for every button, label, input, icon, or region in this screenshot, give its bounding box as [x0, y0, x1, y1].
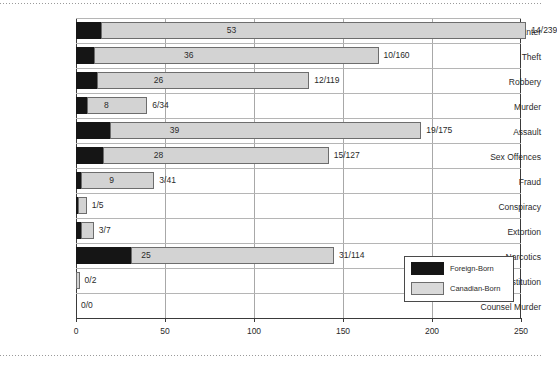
row-separator	[76, 18, 521, 19]
bar-inner-label-assault: 39	[170, 122, 179, 139]
bar-total-label-counsel-murder: 0/0	[81, 297, 93, 314]
bar-segment-canadian-born-robbery	[97, 72, 309, 89]
row-separator	[76, 168, 521, 169]
bar-narcotics	[76, 247, 334, 264]
bar-segment-foreign-born-theft	[76, 47, 94, 64]
bar-segment-canadian-born-fraud	[81, 172, 154, 189]
bar-inner-label-murder: 8	[104, 97, 109, 114]
bar-inner-label-break-enter: 53	[227, 22, 236, 39]
bar-segment-canadian-born-break-enter	[101, 22, 526, 39]
x-tick-label-100: 100	[234, 326, 274, 336]
bar-segment-canadian-born-sex-offences	[103, 147, 329, 164]
bar-conspiracy	[76, 197, 87, 214]
row-separator	[76, 118, 521, 119]
tick-mark-250	[521, 318, 522, 322]
row-band-conspiracy	[76, 193, 521, 218]
bar-break-enter	[76, 22, 526, 39]
bar-total-label-robbery: 12/119	[314, 72, 339, 89]
tick-mark-100	[254, 318, 255, 322]
tick-mark-0	[76, 318, 77, 322]
legend-item-foreign-born: Foreign-Born	[411, 261, 494, 276]
bar-inner-label-sex-offences: 28	[154, 147, 163, 164]
row-separator	[76, 193, 521, 194]
x-tick-label-250: 250	[501, 326, 541, 336]
bar-inner-label-robbery: 26	[154, 72, 163, 89]
bar-segment-canadian-born-prostitution	[76, 272, 80, 289]
bar-segment-foreign-born-murder	[76, 97, 87, 114]
bar-total-label-theft: 10/160	[384, 47, 410, 64]
bar-theft	[76, 47, 379, 64]
legend-label-canadian-born: Canadian-Born	[450, 284, 500, 293]
bar-segment-foreign-born-break-enter	[76, 22, 101, 39]
bar-assault	[76, 122, 421, 139]
bar-segment-canadian-born-narcotics	[131, 247, 334, 264]
x-tick-label-50: 50	[145, 326, 185, 336]
x-axis-line	[76, 318, 521, 319]
bar-segment-foreign-born-robbery	[76, 72, 97, 89]
bar-total-label-conspiracy: 1/5	[92, 197, 104, 214]
bar-segment-foreign-born-assault	[76, 122, 110, 139]
legend-swatch-canadian-born	[411, 282, 444, 295]
bar-total-label-assault: 19/175	[426, 122, 452, 139]
row-separator	[76, 143, 521, 144]
bar-fraud	[76, 172, 154, 189]
tick-mark-200	[432, 318, 433, 322]
bar-robbery	[76, 72, 309, 89]
bar-total-label-narcotics: 31/114	[339, 247, 364, 264]
row-band-extortion	[76, 218, 521, 243]
top-divider-rule	[0, 3, 541, 4]
x-tick-label-0: 0	[56, 326, 96, 336]
tick-mark-50	[165, 318, 166, 322]
bar-segment-canadian-born-extortion	[81, 222, 93, 239]
bar-sex-offences	[76, 147, 329, 164]
chart-legend: Foreign-Born Canadian-Born	[404, 256, 514, 302]
bar-total-label-extortion: 3/7	[99, 222, 111, 239]
bar-total-label-prostitution: 0/2	[85, 272, 97, 289]
bar-total-label-sex-offences: 15/127	[334, 147, 360, 164]
bar-inner-label-narcotics: 25	[141, 247, 150, 264]
x-tick-label-150: 150	[323, 326, 363, 336]
bar-inner-label-fraud: 9	[109, 172, 114, 189]
bar-segment-canadian-born-assault	[110, 122, 422, 139]
x-tick-label-200: 200	[412, 326, 452, 336]
row-separator	[76, 68, 521, 69]
bar-murder	[76, 97, 147, 114]
legend-label-foreign-born: Foreign-Born	[450, 264, 494, 273]
bar-segment-foreign-born-narcotics	[76, 247, 131, 264]
bar-segment-foreign-born-sex-offences	[76, 147, 103, 164]
row-separator	[76, 218, 521, 219]
bar-inner-label-theft: 36	[184, 47, 193, 64]
bar-total-label-fraud: 3/41	[159, 172, 176, 189]
legend-item-canadian-born: Canadian-Born	[411, 281, 500, 296]
bar-total-label-break-enter: 14/239	[531, 22, 557, 39]
legend-swatch-foreign-born	[411, 262, 444, 275]
bar-segment-canadian-born-theft	[94, 47, 379, 64]
row-separator	[76, 243, 521, 244]
bar-total-label-murder: 6/34	[152, 97, 169, 114]
bottom-divider-rule	[0, 355, 541, 356]
bar-prostitution	[76, 272, 80, 289]
bar-extortion	[76, 222, 94, 239]
bar-segment-canadian-born-murder	[87, 97, 148, 114]
tick-mark-150	[343, 318, 344, 322]
row-separator	[76, 93, 521, 94]
bar-segment-canadian-born-conspiracy	[78, 197, 87, 214]
row-separator	[76, 43, 521, 44]
